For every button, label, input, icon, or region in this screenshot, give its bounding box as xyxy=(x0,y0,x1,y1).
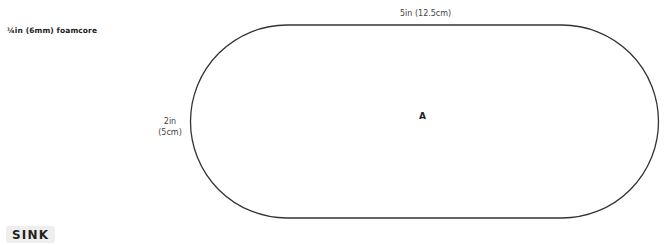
section-badge: SINK xyxy=(6,226,55,243)
piece-label: A xyxy=(419,111,426,121)
stadium-template-shape xyxy=(0,0,671,245)
